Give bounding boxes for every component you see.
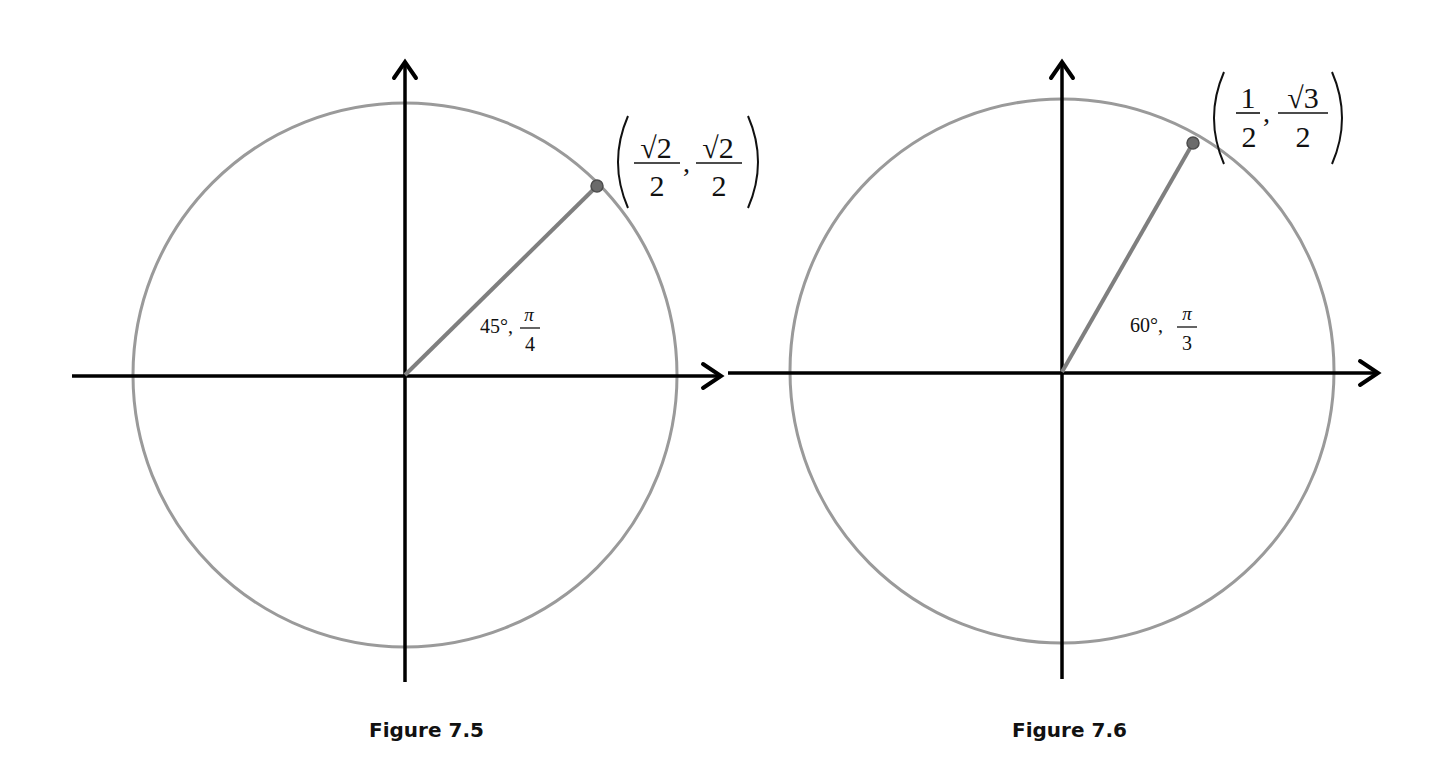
point-marker [1187,137,1199,149]
right-paren [1332,72,1342,164]
radius-line [405,186,597,375]
angle-radians-denominator: 4 [525,333,535,355]
point-y-denominator: 2 [712,169,727,202]
figure-7-5: 45°, π 4 √2 2 , √2 2 [72,62,758,682]
radius-line [1062,143,1193,372]
point-marker [591,180,603,192]
figure-7-6: 60°, π 3 1 2 , √3 2 [728,62,1378,679]
angle-degrees-label: 60°, [1130,314,1163,336]
angle-radians-numerator: π [1182,303,1192,324]
point-x-numerator: 1 [1241,81,1256,114]
point-x-denominator: 2 [650,169,665,202]
comma: , [1263,97,1270,128]
point-x-denominator: 2 [1242,120,1257,153]
figure-caption-7-5: Figure 7.5 [369,718,484,742]
angle-degrees-label: 45°, [480,315,513,337]
point-y-numerator: √3 [1287,81,1318,114]
comma: , [683,147,690,178]
angle-radians-numerator: π [524,304,534,325]
point-x-numerator: √2 [640,131,671,164]
point-coordinate-label: 1 2 , √3 2 [1214,72,1342,164]
point-y-denominator: 2 [1296,120,1311,153]
left-paren [618,116,628,208]
point-coordinate-label: √2 2 , √2 2 [618,116,758,208]
point-y-numerator: √2 [702,131,733,164]
figure-caption-7-6: Figure 7.6 [1012,718,1127,742]
angle-radians-denominator: 3 [1182,332,1192,354]
right-paren [748,116,758,208]
